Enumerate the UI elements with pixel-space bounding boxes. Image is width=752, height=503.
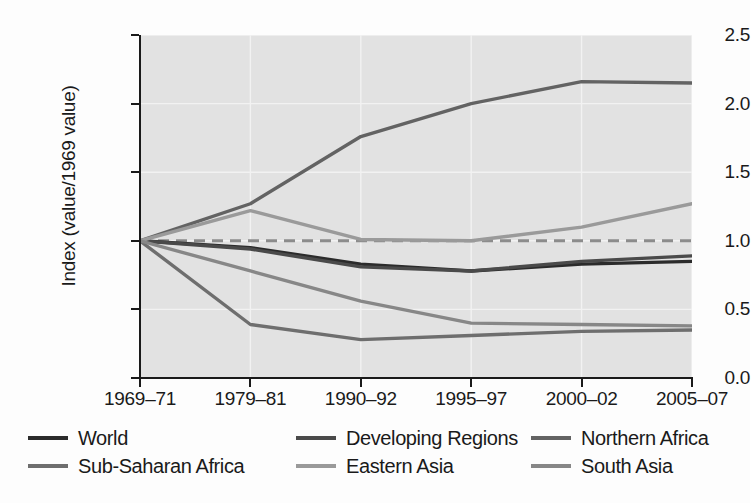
legend-label: World [78,428,128,448]
y-tick-label: 1.5 [624,162,750,181]
legend-line-swatch [296,464,336,468]
y-tick-label: 1.0 [624,231,750,250]
legend-item-south-asia[interactable]: South Asia [531,452,728,480]
x-tick-label: 1995–97 [411,389,531,408]
x-tick-mark [139,379,141,387]
x-tick-label: 2000–02 [522,389,642,408]
y-tick-mark [131,103,139,105]
legend-item-world[interactable]: World [28,424,296,452]
series-line-eastern-asia [140,204,692,241]
y-tick-label: 0.5 [624,299,750,318]
legend-label: Northern Africa [581,428,708,448]
legend-label: Eastern Asia [346,456,454,476]
y-tick-mark [131,240,139,242]
plot-area [140,35,692,378]
plot-lines [140,35,692,378]
y-tick-mark [131,377,139,379]
y-tick-mark [131,308,139,310]
legend-label: South Asia [581,456,673,476]
x-tick-mark [249,379,251,387]
x-tick-label: 1979–81 [190,389,310,408]
legend-item-eastern-asia[interactable]: Eastern Asia [296,452,531,480]
gridlines [140,35,692,378]
y-tick-label: 2.0 [624,94,750,113]
y-tick-mark [131,171,139,173]
legend-label: Developing Regions [346,428,518,448]
legend-line-swatch [28,436,68,440]
x-tick-label: 2005–07 [632,389,752,408]
x-tick-mark [691,379,693,387]
y-axis-line [139,35,141,379]
x-axis-line [139,377,693,379]
legend-line-swatch [296,436,336,440]
legend-item-sub-saharan-africa[interactable]: Sub-Saharan Africa [28,452,296,480]
legend-line-swatch [531,464,571,468]
legend-row: WorldDeveloping RegionsNorthern Africa [28,424,728,452]
legend-label: Sub-Saharan Africa [78,456,244,476]
x-tick-mark [581,379,583,387]
series-lines [140,82,692,340]
chart-legend: WorldDeveloping RegionsNorthern Africa S… [28,424,728,486]
y-axis-title: Index (value/1969 value) [58,21,80,351]
legend-item-developing-regions[interactable]: Developing Regions [296,424,531,452]
series-line-south-asia [140,241,692,326]
legend-item-northern-africa[interactable]: Northern Africa [531,424,728,452]
legend-line-swatch [28,464,68,468]
y-tick-label: 0.0 [624,368,750,387]
legend-line-swatch [531,436,571,440]
x-tick-label: 1990–92 [301,389,421,408]
legend-row: Sub-Saharan AfricaEastern AsiaSouth Asia [28,452,728,480]
x-tick-label: 1969–71 [80,389,200,408]
x-tick-mark [470,379,472,387]
x-tick-mark [360,379,362,387]
y-tick-mark [131,34,139,36]
y-tick-label: 2.5 [624,25,750,44]
